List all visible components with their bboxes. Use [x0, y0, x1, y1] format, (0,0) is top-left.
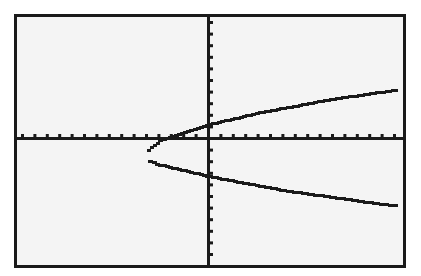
y-tick — [209, 114, 213, 117]
y-tick — [209, 207, 213, 210]
x-tick — [21, 134, 24, 138]
x-tick — [195, 134, 198, 138]
x-tick — [368, 134, 371, 138]
y-tick — [209, 149, 213, 152]
y-tick — [209, 195, 213, 198]
x-tick — [108, 134, 111, 138]
y-tick — [209, 241, 213, 244]
x-tick — [145, 134, 148, 138]
x-tick — [306, 134, 309, 138]
x-tick — [83, 134, 86, 138]
y-tick — [209, 44, 213, 47]
y-tick — [209, 21, 213, 24]
y-tick — [209, 91, 213, 94]
x-tick — [33, 134, 36, 138]
graph-plot — [0, 0, 421, 276]
y-tick — [209, 56, 213, 59]
y-tick — [209, 67, 213, 70]
x-tick — [244, 134, 247, 138]
curve-upper-segment — [156, 142, 160, 145]
x-tick — [381, 134, 384, 138]
y-axis — [207, 17, 210, 265]
x-tick — [219, 134, 222, 138]
x-tick — [232, 134, 235, 138]
x-tick — [95, 134, 98, 138]
x-tick — [343, 134, 346, 138]
x-tick — [281, 134, 284, 138]
x-tick — [71, 134, 74, 138]
y-tick — [209, 160, 213, 163]
x-tick — [393, 134, 396, 138]
y-tick — [209, 33, 213, 36]
x-tick — [294, 134, 297, 138]
x-tick — [269, 134, 272, 138]
x-tick — [319, 134, 322, 138]
y-tick — [209, 79, 213, 82]
y-tick — [209, 218, 213, 221]
y-tick — [209, 183, 213, 186]
x-tick — [133, 134, 136, 138]
x-tick — [356, 134, 359, 138]
y-tick — [209, 253, 213, 256]
curve-upper-segment — [394, 89, 398, 92]
x-tick — [157, 134, 160, 138]
x-tick — [331, 134, 334, 138]
x-tick — [257, 134, 260, 138]
x-tick — [120, 134, 123, 138]
curve-lower-segment — [147, 149, 150, 152]
x-tick — [46, 134, 49, 138]
y-tick — [209, 172, 213, 175]
y-tick — [209, 102, 213, 105]
x-tick — [58, 134, 61, 138]
curve-lower-segment — [394, 204, 398, 207]
y-tick — [209, 230, 213, 233]
